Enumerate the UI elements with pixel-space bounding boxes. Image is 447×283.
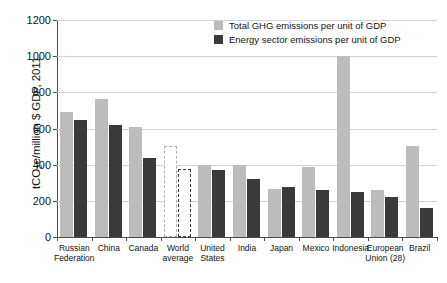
x-tick-mark [368,237,369,241]
bar-total-ghg [129,127,142,237]
bar-total-ghg [198,165,211,237]
x-tick-mark [161,237,162,241]
legend-swatch-total-icon [214,21,223,30]
x-tick-mark [264,237,265,241]
y-tick-mark-1000 [53,56,57,57]
y-tick-mark-400 [53,165,57,166]
x-tick-mark [195,237,196,241]
plot-area: 020040060080010001200 [57,20,437,237]
y-tick-label-600: 600 [33,123,51,135]
bar-energy-sector [178,169,191,237]
y-tick-label-800: 800 [33,86,51,98]
y-tick-label-1200: 1200 [27,14,51,26]
y-axis-title-post: e/million $ GDP, 2011 [30,57,42,164]
y-axis-title-pre: tCO [30,169,42,189]
bar-energy-sector [143,158,156,237]
x-tick-mark [402,237,403,241]
y-tick-mark-200 [53,201,57,202]
chart-legend: Total GHG emissions per unit of GDP Ener… [214,19,401,47]
y-tick-label-400: 400 [33,159,51,171]
y-tick-mark-800 [53,92,57,93]
bar-total-ghg [371,190,384,237]
x-axis-label-brazil: Brazil [389,243,447,253]
x-tick-mark [230,237,231,241]
bar-total-ghg [406,146,419,237]
x-tick-mark [437,237,438,241]
bar-energy-sector [282,187,295,237]
bar-energy-sector [316,190,329,237]
bar-total-ghg [268,189,281,237]
x-tick-mark [299,237,300,241]
x-tick-mark [92,237,93,241]
y-tick-mark-1200 [53,20,57,21]
bar-total-ghg [302,167,315,237]
gridline-800 [57,92,437,93]
legend-label-total: Total GHG emissions per unit of GDP [229,20,386,31]
y-tick-mark-600 [53,129,57,130]
legend-swatch-energy-icon [214,35,223,44]
bar-energy-sector [74,120,87,237]
bar-energy-sector [351,192,364,237]
bar-energy-sector [420,208,433,237]
bar-energy-sector [385,197,398,237]
bar-energy-sector [247,179,260,237]
legend-label-energy: Energy sector emissions per unit of GDP [229,34,401,45]
legend-item-energy: Energy sector emissions per unit of GDP [214,33,401,46]
bar-total-ghg [95,99,108,237]
bar-energy-sector [212,170,225,237]
y-tick-label-200: 200 [33,195,51,207]
x-tick-mark [57,237,58,241]
legend-item-total: Total GHG emissions per unit of GDP [214,19,401,32]
y-tick-label-0: 0 [45,231,51,243]
bar-total-ghg [60,112,73,237]
gridline-1000 [57,56,437,57]
x-tick-mark [333,237,334,241]
emissions-per-gdp-bar-chart: tCO2e/million $ GDP, 2011 02004006008001… [0,0,447,283]
bar-total-ghg [337,56,350,237]
x-axis-line [57,237,438,238]
bar-total-ghg [233,165,246,237]
bar-total-ghg [164,146,177,237]
x-tick-mark [126,237,127,241]
bar-energy-sector [109,125,122,237]
y-tick-label-1000: 1000 [27,50,51,62]
